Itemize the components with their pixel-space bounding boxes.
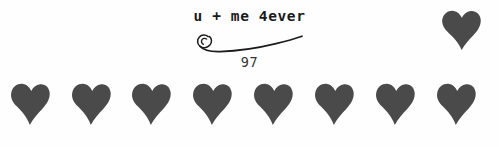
heart-icon	[192, 82, 232, 126]
heart-row	[0, 82, 499, 130]
heart-icon	[10, 82, 50, 126]
heart-icon	[253, 82, 293, 126]
greeting-card-canvas: u + me 4ever 97	[0, 0, 499, 147]
heart-icon	[436, 82, 476, 126]
heart-icon	[71, 82, 111, 126]
heart-icon	[441, 9, 481, 51]
caption-text: u + me 4ever	[0, 8, 499, 25]
heart-icon	[131, 82, 171, 126]
caption-number: 97	[0, 55, 499, 70]
spiral-swirl-flourish-icon	[192, 27, 312, 57]
heart-icon	[375, 82, 415, 126]
flourish-container	[0, 27, 499, 57]
heart-icon	[314, 82, 354, 126]
caption-block: u + me 4ever 97	[0, 8, 499, 70]
